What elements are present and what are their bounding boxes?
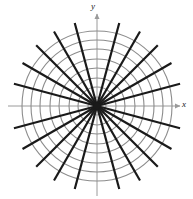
origin-point <box>94 103 100 109</box>
y-axis-label: y <box>91 2 95 11</box>
origin-dot <box>94 103 100 109</box>
polar-grid-figure: y x <box>0 0 193 199</box>
polar-grid-canvas <box>0 0 193 199</box>
x-axis-label: x <box>182 100 186 109</box>
